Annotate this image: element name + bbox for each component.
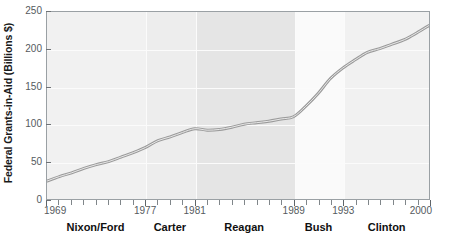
plot-area — [46, 11, 430, 200]
series-line-group — [47, 12, 429, 199]
x-tick-mark — [393, 200, 394, 205]
x-tick-mark — [120, 200, 121, 205]
x-tick-mark — [96, 200, 97, 205]
y-tick-label: 0 — [16, 195, 42, 205]
era-label-group: Nixon/FordCarterReaganBushClinton — [0, 222, 449, 238]
x-tick-mark — [83, 200, 84, 205]
x-tick-mark — [71, 200, 72, 205]
y-tick-mark — [46, 87, 51, 88]
y-tick-mark — [46, 124, 51, 125]
x-tick-label: 2000 — [410, 206, 432, 216]
x-tick-label: 1969 — [44, 206, 66, 216]
series-line-highlight-0 — [47, 25, 429, 181]
x-tick-label: 1989 — [283, 206, 305, 216]
y-tick-label: 150 — [16, 82, 42, 92]
y-tick-mark — [46, 162, 51, 163]
x-tick-label: 1993 — [332, 206, 354, 216]
x-tick-mark — [157, 200, 158, 205]
y-tick-label: 50 — [16, 157, 42, 167]
x-tick-label: 1977 — [134, 206, 156, 216]
x-axis-tick-labels: 196919771981198919932000 — [0, 206, 449, 220]
era-label-bush: Bush — [305, 222, 333, 233]
y-axis-title-text: Federal Grants-in-Aid (Billions $) — [2, 22, 14, 183]
x-tick-mark — [306, 200, 307, 205]
era-label-carter: Carter — [154, 222, 186, 233]
era-label-clinton: Clinton — [368, 222, 406, 233]
x-tick-mark — [207, 200, 208, 205]
x-tick-mark — [244, 200, 245, 205]
x-tick-mark — [257, 200, 258, 205]
x-tick-mark — [380, 200, 381, 205]
x-tick-label: 1981 — [184, 206, 206, 216]
y-tick-label: 100 — [16, 119, 42, 129]
x-tick-mark — [232, 200, 233, 205]
era-label-reagan: Reagan — [224, 222, 264, 233]
x-tick-mark — [269, 200, 270, 205]
y-tick-label: 250 — [16, 6, 42, 16]
x-tick-mark — [219, 200, 220, 205]
era-label-nixon-ford: Nixon/Ford — [67, 222, 125, 233]
x-tick-mark — [319, 200, 320, 205]
chart-figure: Federal Grants-in-Aid (Billions $) 05010… — [0, 0, 449, 245]
y-tick-mark — [46, 49, 51, 50]
x-tick-mark — [368, 200, 369, 205]
x-tick-mark — [108, 200, 109, 205]
y-tick-mark — [46, 11, 51, 12]
y-tick-mark — [46, 200, 51, 201]
x-tick-mark — [170, 200, 171, 205]
x-tick-mark — [405, 200, 406, 205]
y-tick-label: 200 — [16, 44, 42, 54]
x-tick-mark — [356, 200, 357, 205]
series-line-0 — [47, 25, 429, 181]
